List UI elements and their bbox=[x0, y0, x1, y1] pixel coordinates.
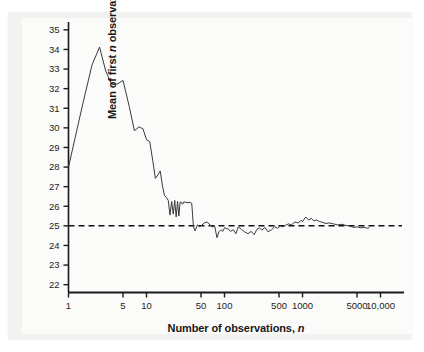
x-axis-title: Number of observations, n bbox=[168, 322, 305, 334]
running-mean-line bbox=[69, 47, 370, 238]
y-tick-label: 29 bbox=[49, 142, 60, 153]
figure-container: 2223242526272829303132333435 15105010050… bbox=[0, 0, 424, 352]
x-tick-label: 5000 bbox=[346, 300, 367, 311]
x-tick-label: 10,000 bbox=[366, 300, 395, 311]
x-axis-ticks: 1510501005001000500010,000 bbox=[66, 293, 395, 311]
y-tick-label: 26 bbox=[49, 201, 60, 212]
x-tick-label: 1 bbox=[66, 300, 71, 311]
x-axis-title-italic-n: n bbox=[298, 322, 305, 334]
y-tick-label: 30 bbox=[49, 122, 60, 133]
x-tick-label: 10 bbox=[141, 300, 152, 311]
x-tick-label: 500 bbox=[271, 300, 287, 311]
x-tick-label: 1000 bbox=[292, 300, 313, 311]
x-axis-title-wrapper: Number of observations, n bbox=[68, 318, 404, 336]
y-tick-label: 33 bbox=[49, 63, 60, 74]
y-tick-label: 22 bbox=[49, 279, 60, 290]
y-tick-label: 28 bbox=[49, 161, 60, 172]
y-tick-label: 35 bbox=[49, 24, 60, 35]
y-axis-ticks: 2223242526272829303132333435 bbox=[49, 24, 69, 290]
x-tick-label: 50 bbox=[196, 300, 207, 311]
y-tick-label: 25 bbox=[49, 220, 60, 231]
y-tick-label: 34 bbox=[49, 44, 60, 55]
y-tick-label: 32 bbox=[49, 83, 60, 94]
y-tick-label: 23 bbox=[49, 259, 60, 270]
chart-canvas: 2223242526272829303132333435 15105010050… bbox=[0, 0, 424, 352]
y-tick-label: 27 bbox=[49, 181, 60, 192]
y-tick-label: 24 bbox=[49, 240, 60, 251]
y-tick-label: 31 bbox=[49, 103, 60, 114]
x-tick-label: 5 bbox=[120, 300, 125, 311]
x-tick-label: 100 bbox=[217, 300, 233, 311]
